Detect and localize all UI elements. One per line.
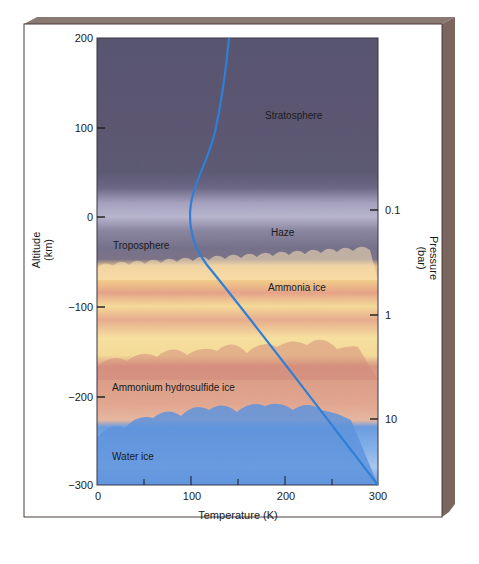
pressure-tick-1: 1 [385, 309, 391, 321]
label-ammonium-hydrosulfide-ice: Ammonium hydrosulfide ice [112, 382, 235, 393]
y-axis-title-line2: (km) [42, 239, 54, 261]
y-tick-minus-200: −200 [68, 391, 93, 403]
plot-area [97, 38, 378, 485]
pressure-axis-title-line1: Pressure [428, 236, 440, 280]
label-haze: Haze [271, 227, 295, 238]
label-troposphere: Troposphere [113, 240, 170, 251]
x-tick-200: 200 [277, 490, 295, 502]
label-water-ice: Water ice [112, 451, 154, 462]
x-tick-0: 0 [95, 490, 101, 502]
y-tick-0: 0 [87, 211, 93, 223]
label-stratosphere: Stratosphere [265, 110, 323, 121]
x-tick-100: 100 [183, 490, 201, 502]
y-tick-100: 100 [75, 122, 93, 134]
frame-right-bevel [442, 17, 455, 517]
frame-top-bevel [24, 17, 455, 24]
label-ammonia-ice: Ammonia ice [268, 282, 326, 293]
y-tick-minus-300: −300 [68, 479, 93, 491]
x-tick-300: 300 [369, 490, 387, 502]
chart-canvas: 200 100 0 −100 −200 −300 0 100 200 300 0… [0, 0, 479, 564]
y-tick-minus-100: −100 [68, 301, 93, 313]
pressure-axis-title-line2: (bar) [416, 246, 428, 269]
pressure-tick-0.1: 0.1 [385, 204, 400, 216]
y-axis-title-line1: Altitude [30, 232, 42, 269]
x-axis-title: Temperature (K) [198, 509, 277, 521]
y-tick-200: 200 [75, 32, 93, 44]
pressure-tick-10: 10 [385, 413, 397, 425]
